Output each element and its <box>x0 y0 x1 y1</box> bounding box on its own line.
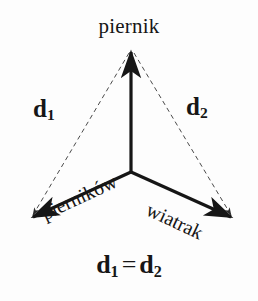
label-distance-d1: d1 <box>33 96 55 123</box>
equation-right-subscript: 2 <box>154 263 162 280</box>
equation-left-base: d <box>96 250 110 279</box>
label-distance-d2-subscript: 2 <box>200 104 208 121</box>
diagram-canvas: piernik d1 d2 pierników wiatrak d1=d2 <box>0 0 258 301</box>
label-distance-d2-base: d <box>186 93 200 120</box>
equation-d1-equals-d2: d1=d2 <box>0 252 258 280</box>
label-distance-d1-base: d <box>33 95 47 122</box>
label-distance-d1-subscript: 1 <box>47 106 55 123</box>
label-distance-d2: d2 <box>186 94 208 121</box>
equation-left-subscript: 1 <box>111 263 119 280</box>
label-piernik: piernik <box>0 16 258 37</box>
dashed-connector-d2 <box>134 53 231 215</box>
equation-equals-sign: = <box>119 250 140 279</box>
equation-right-base: d <box>139 250 153 279</box>
